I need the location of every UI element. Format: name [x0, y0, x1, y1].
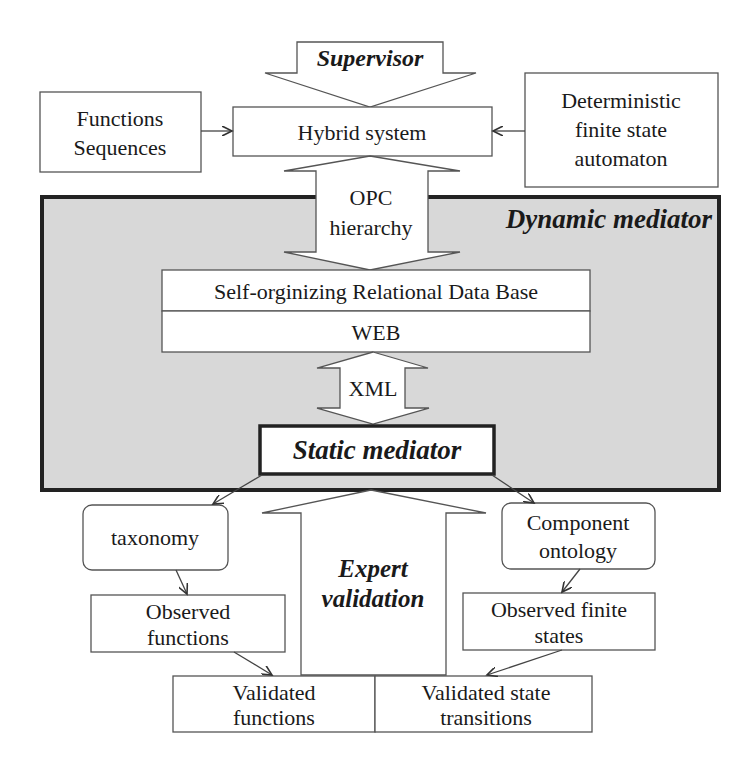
xml-label: XML — [349, 376, 398, 401]
web-box: WEB — [162, 311, 590, 352]
arrow-taxonomy-to-observed — [176, 570, 187, 594]
validated-functions-line2: functions — [233, 705, 315, 730]
component-ontology-line1: Component — [527, 510, 630, 535]
expert-validation-line1: Expert — [337, 555, 409, 582]
static-mediator-box: Static mediator — [260, 426, 494, 474]
observed-finite-states-line2: states — [535, 623, 584, 648]
taxonomy-label: taxonomy — [111, 525, 199, 550]
taxonomy-box: taxonomy — [83, 505, 228, 570]
supervisor-label: Supervisor — [317, 45, 424, 71]
observed-functions-line2: functions — [147, 625, 229, 650]
functions-sequences-line1: Functions — [77, 106, 164, 131]
expert-validation-line2: validation — [322, 585, 425, 612]
validated-state-transitions-line1: Validated state — [422, 680, 551, 705]
validated-state-transitions-box: Validated state transitions — [375, 676, 592, 732]
observed-finite-states-box: Observed finite states — [463, 593, 655, 650]
opc-line1: OPC — [350, 185, 393, 210]
dynamic-mediator-label: Dynamic mediator — [505, 204, 713, 234]
arrow-observed-to-validated-functions — [234, 652, 272, 675]
observed-functions-box: Observed functions — [91, 595, 285, 652]
arrow-observed-to-validated-states — [487, 650, 562, 675]
validated-state-transitions-line2: transitions — [440, 705, 532, 730]
database-box: Self-orginizing Relational Data Base — [162, 270, 590, 311]
dfsa-line3: automaton — [575, 146, 668, 171]
functions-sequences-line2: Sequences — [74, 135, 167, 160]
dfsa-box: Deterministic finite state automaton — [525, 73, 718, 187]
arrow-ontology-to-observed — [562, 569, 580, 592]
hybrid-system-label: Hybrid system — [298, 120, 427, 145]
component-ontology-box: Component ontology — [502, 503, 655, 569]
validated-functions-line1: Validated — [232, 680, 315, 705]
dfsa-line1: Deterministic — [561, 88, 681, 113]
observed-functions-line1: Observed — [146, 599, 230, 624]
functions-sequences-box: Functions Sequences — [40, 92, 201, 172]
opc-line2: hierarchy — [329, 215, 412, 240]
architecture-diagram: Dynamic mediator Supervisor Hybrid syste… — [0, 0, 752, 770]
component-ontology-line2: ontology — [539, 538, 617, 563]
static-mediator-label: Static mediator — [293, 435, 462, 465]
hybrid-system-box: Hybrid system — [233, 107, 492, 156]
validated-functions-box: Validated functions — [173, 676, 375, 732]
expert-validation-arrow: Expert validation — [262, 490, 486, 675]
web-label: WEB — [352, 320, 401, 345]
database-label: Self-orginizing Relational Data Base — [214, 279, 538, 304]
supervisor-arrow: Supervisor — [265, 42, 476, 107]
dfsa-line2: finite state — [575, 117, 667, 142]
observed-finite-states-line1: Observed finite — [491, 597, 627, 622]
